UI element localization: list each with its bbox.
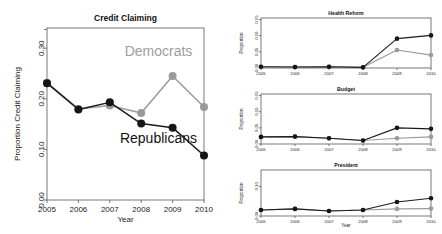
panel-credit-claiming: 0.000.100.200.30200520062007200820092010… bbox=[0, 0, 221, 234]
data-point-republicans bbox=[361, 65, 366, 70]
x-tick-label: 2007 bbox=[324, 219, 334, 224]
data-point-democrats bbox=[200, 103, 208, 111]
annotation-democrats: Democrats bbox=[125, 43, 193, 59]
x-tick-label: 2010 bbox=[426, 219, 436, 224]
x-tick-label: 2008 bbox=[132, 205, 150, 214]
x-tick-label: 2009 bbox=[164, 205, 182, 214]
data-point-republicans bbox=[259, 135, 264, 140]
y-tick-label: 0.15 bbox=[254, 91, 259, 100]
x-tick-label: 2006 bbox=[290, 147, 300, 152]
x-tick-label: 2009 bbox=[392, 147, 402, 152]
series-line-republicans bbox=[261, 128, 431, 141]
data-point-republicans bbox=[293, 134, 298, 139]
data-point-republicans bbox=[429, 33, 434, 38]
chart-title: President bbox=[334, 162, 358, 168]
data-point-republicans bbox=[259, 208, 264, 213]
chart-title: Health Reform bbox=[328, 10, 364, 16]
data-point-democrats bbox=[429, 135, 434, 140]
data-point-republicans bbox=[106, 98, 114, 106]
y-tick-label: 0.10 bbox=[254, 31, 259, 40]
data-point-democrats bbox=[169, 72, 177, 80]
data-point-republicans bbox=[293, 65, 298, 70]
y-tick-label: 0.10 bbox=[37, 141, 46, 157]
data-point-republicans bbox=[259, 64, 264, 69]
data-point-republicans bbox=[137, 120, 145, 128]
x-tick-label: 2007 bbox=[324, 71, 334, 76]
x-tick-label: 2007 bbox=[101, 205, 119, 214]
x-tick-label: 2008 bbox=[358, 219, 368, 224]
data-point-republicans bbox=[327, 136, 332, 141]
data-point-democrats bbox=[137, 109, 145, 117]
budget-chart: 0.000.050.100.15200520062007200820092010… bbox=[221, 76, 442, 156]
y-tick-label: 0.10 bbox=[254, 182, 259, 191]
y-axis-label: Proportion bbox=[239, 182, 244, 204]
data-point-republicans bbox=[429, 127, 434, 132]
y-axis-label: Proportion bbox=[239, 108, 244, 130]
x-tick-label: 2005 bbox=[38, 205, 56, 214]
y-tick-label: 0.30 bbox=[37, 40, 46, 56]
x-tick-label: 2010 bbox=[426, 147, 436, 152]
data-point-democrats bbox=[429, 206, 434, 211]
data-point-republicans bbox=[395, 200, 400, 205]
y-tick-label: 0.15 bbox=[254, 15, 259, 24]
y-tick-label: 0.20 bbox=[37, 90, 46, 106]
figure-canvas: 0.000.100.200.30200520062007200820092010… bbox=[0, 0, 442, 234]
series-line-democrats bbox=[261, 50, 431, 67]
x-tick-label: 2006 bbox=[290, 219, 300, 224]
data-point-republicans bbox=[200, 151, 208, 159]
series-line-democrats bbox=[47, 76, 204, 113]
y-axis-label: Proportion Credit Claiming bbox=[13, 67, 22, 161]
y-tick-label: 0.10 bbox=[254, 107, 259, 116]
x-tick-label: 2006 bbox=[290, 71, 300, 76]
plot-frame bbox=[261, 18, 431, 68]
x-tick-label: 2005 bbox=[256, 219, 266, 224]
data-point-republicans bbox=[43, 79, 51, 87]
data-point-republicans bbox=[361, 208, 366, 213]
data-point-republicans bbox=[293, 207, 298, 212]
x-tick-label: 2009 bbox=[392, 219, 402, 224]
x-tick-label: 2007 bbox=[324, 147, 334, 152]
data-point-democrats bbox=[395, 136, 400, 141]
x-tick-label: 2010 bbox=[195, 205, 213, 214]
x-axis-label: Year bbox=[117, 215, 134, 224]
chart-title: Budget bbox=[337, 86, 355, 92]
data-point-republicans bbox=[327, 209, 332, 214]
data-point-democrats bbox=[395, 207, 400, 212]
data-point-republicans bbox=[395, 36, 400, 41]
data-point-democrats bbox=[395, 48, 400, 53]
chart-title: Credit Claiming bbox=[94, 13, 157, 23]
x-tick-label: 2008 bbox=[358, 147, 368, 152]
data-point-republicans bbox=[327, 64, 332, 69]
y-tick-label: 0.05 bbox=[254, 47, 259, 56]
x-tick-label: 2005 bbox=[256, 71, 266, 76]
president-chart: 0.000.10200520062007200820092010Presiden… bbox=[221, 152, 442, 234]
y-axis-label: Proportion bbox=[239, 32, 244, 54]
data-point-republicans bbox=[395, 126, 400, 131]
y-tick-label: 0.05 bbox=[254, 123, 259, 132]
data-point-republicans bbox=[74, 105, 82, 113]
data-point-democrats bbox=[429, 53, 434, 58]
data-point-republicans bbox=[361, 138, 366, 143]
panel-right-stack: 0.000.050.100.15200520062007200820092010… bbox=[221, 0, 442, 234]
health-reform-chart: 0.000.050.100.15200520062007200820092010… bbox=[221, 0, 442, 80]
x-tick-label: 2008 bbox=[358, 71, 368, 76]
credit-claiming-chart: 0.000.100.200.30200520062007200820092010… bbox=[0, 0, 221, 234]
x-tick-label: 2006 bbox=[70, 205, 88, 214]
annotation-republicans: Republicans bbox=[120, 130, 197, 146]
data-point-republicans bbox=[429, 196, 434, 201]
x-tick-label: 2005 bbox=[256, 147, 266, 152]
x-tick-label: 2009 bbox=[392, 71, 402, 76]
x-axis-label: Year bbox=[341, 223, 351, 228]
x-tick-label: 2010 bbox=[426, 71, 436, 76]
